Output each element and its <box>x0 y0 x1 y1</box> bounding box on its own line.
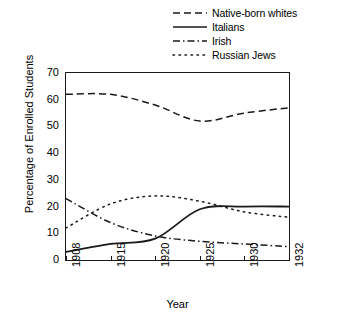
x-tick-mark <box>155 256 156 260</box>
x-tick-label: 1915 <box>116 243 127 267</box>
x-tick-label: 1932 <box>294 243 305 267</box>
plot-area <box>65 72 290 261</box>
legend-label-native-born-whites: Native-born whites <box>212 7 297 19</box>
x-tick-label: 1925 <box>205 243 216 267</box>
y-tick-label: 10 <box>29 227 59 238</box>
y-tick-label: 70 <box>29 67 59 78</box>
legend-label-italians: Italians <box>212 21 244 33</box>
legend-label-irish: Irish <box>212 35 231 47</box>
y-tick-label: 30 <box>29 174 59 185</box>
y-tick-label: 60 <box>29 94 59 105</box>
y-tick-label: 50 <box>29 120 59 131</box>
y-tick-label: 0 <box>29 254 59 265</box>
x-tick-label: 1920 <box>160 243 171 267</box>
x-tick-label: 1930 <box>249 243 260 267</box>
y-tick-label: 40 <box>29 147 59 158</box>
legend-swatch-dotted-icon <box>172 49 208 61</box>
legend-item-italians: Italians <box>172 20 332 34</box>
x-tick-mark <box>289 256 290 260</box>
legend-item-native-born-whites: Native-born whites <box>172 6 332 20</box>
legend-item-irish: Irish <box>172 34 332 48</box>
legend-swatch-dash-dot-icon <box>172 35 208 47</box>
legend-label-russian-jews: Russian Jews <box>212 49 276 61</box>
chart-legend: Native-born whites Italians Irish <box>172 6 332 64</box>
series-canvas <box>66 73 289 260</box>
legend-swatch-solid-icon <box>172 21 208 33</box>
series-line-native-born-whites <box>66 94 289 122</box>
x-tick-mark <box>66 256 67 260</box>
legend-swatch-dashed-icon <box>172 7 208 19</box>
x-tick-mark <box>244 256 245 260</box>
y-tick-label: 20 <box>29 201 59 212</box>
x-tick-label: 1908 <box>71 243 82 267</box>
x-tick-mark <box>111 256 112 260</box>
legend-item-russian-jews: Russian Jews <box>172 48 332 62</box>
line-chart: Native-born whites Italians Irish <box>0 0 338 320</box>
x-tick-mark <box>200 256 201 260</box>
x-axis-title: Year <box>65 298 290 310</box>
